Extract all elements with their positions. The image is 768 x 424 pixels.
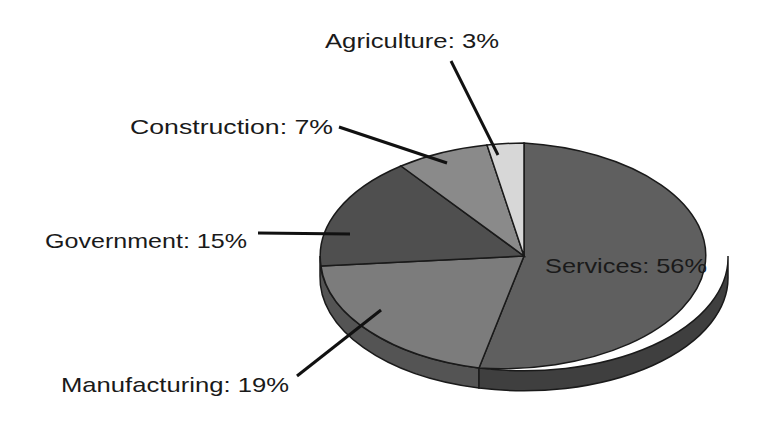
pie-chart: Agriculture: 3% Construction: 7% Governm… xyxy=(0,0,768,424)
label-services: Services: 56% xyxy=(545,254,707,277)
leader-construction xyxy=(339,127,447,163)
leader-government xyxy=(258,233,350,234)
label-government: Government: 15% xyxy=(45,229,247,252)
label-agriculture: Agriculture: 3% xyxy=(325,29,499,52)
label-construction: Construction: 7% xyxy=(130,115,333,138)
leader-agriculture xyxy=(451,61,498,155)
label-manufacturing: Manufacturing: 19% xyxy=(61,373,289,396)
